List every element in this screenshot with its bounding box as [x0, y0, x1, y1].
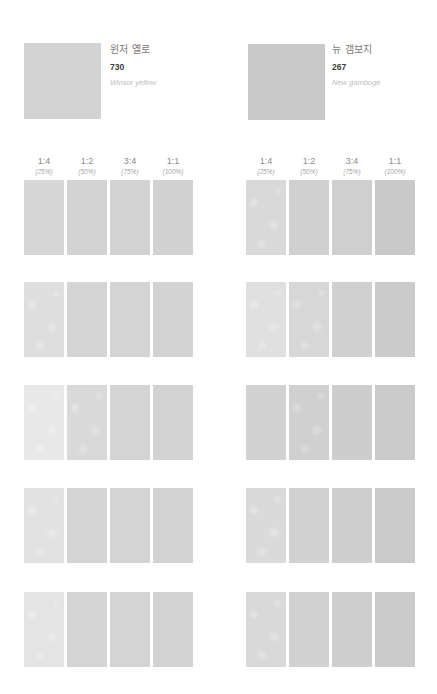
paint-info: 윈저 옐로 730 Winsor yellow — [110, 43, 156, 88]
color-swatch — [375, 488, 415, 563]
paint-korean-name: 윈저 옐로 — [110, 43, 156, 57]
color-swatch — [332, 385, 372, 460]
dilution-percent: (25%) — [24, 167, 64, 176]
color-swatch — [153, 488, 193, 563]
color-swatch — [375, 592, 415, 667]
color-swatch — [289, 180, 329, 255]
dilution-ratio: 3:4 — [332, 156, 372, 167]
color-swatch — [246, 488, 286, 563]
swatch-row — [246, 592, 421, 667]
dilution-percent: (50%) — [289, 167, 329, 176]
color-swatch — [24, 282, 64, 357]
dilution-header: 1:2 (50%) — [67, 156, 107, 176]
dilution-percent: (100%) — [375, 167, 415, 176]
color-swatch — [24, 385, 64, 460]
dilution-header: 3:4 (75%) — [332, 156, 372, 176]
color-swatch — [375, 385, 415, 460]
paint-korean-name: 뉴 갬보지 — [332, 43, 380, 57]
color-swatch — [289, 385, 329, 460]
swatch-row — [246, 385, 421, 460]
dilution-header: 3:4 (75%) — [110, 156, 150, 176]
color-swatch — [246, 282, 286, 357]
paint-number: 267 — [332, 62, 380, 73]
dilution-ratio: 1:2 — [67, 156, 107, 167]
color-swatch — [332, 180, 372, 255]
color-swatch — [246, 180, 286, 255]
swatch-row — [24, 282, 199, 357]
color-swatch — [153, 385, 193, 460]
dilution-percent: (75%) — [110, 167, 150, 176]
dilution-header: 1:4 (25%) — [246, 156, 286, 176]
color-swatch — [289, 592, 329, 667]
dilution-percent: (50%) — [67, 167, 107, 176]
color-swatch — [67, 180, 107, 255]
dilution-ratio: 1:1 — [153, 156, 193, 167]
swatch-row — [246, 488, 421, 563]
color-swatch — [289, 282, 329, 357]
color-swatch — [110, 592, 150, 667]
dilution-ratio: 1:4 — [246, 156, 286, 167]
color-swatch — [110, 180, 150, 255]
swatch-row — [246, 180, 421, 255]
color-swatch — [110, 385, 150, 460]
color-swatch — [332, 282, 372, 357]
paint-swatch-large — [24, 43, 101, 119]
dilution-header: 1:1 (100%) — [375, 156, 415, 176]
dilution-header: 1:2 (50%) — [289, 156, 329, 176]
paint-english-name: New gamboge — [332, 78, 380, 88]
color-swatch — [246, 592, 286, 667]
swatch-row — [24, 180, 199, 255]
color-swatch — [332, 488, 372, 563]
color-swatch — [110, 488, 150, 563]
color-swatch — [153, 592, 193, 667]
dilution-percent: (75%) — [332, 167, 372, 176]
dilution-percent: (25%) — [246, 167, 286, 176]
paint-number: 730 — [110, 62, 156, 73]
color-swatch — [24, 592, 64, 667]
color-swatch — [67, 488, 107, 563]
dilution-ratio: 1:2 — [289, 156, 329, 167]
color-swatch — [67, 592, 107, 667]
color-swatch — [246, 385, 286, 460]
paint-info: 뉴 갬보지 267 New gamboge — [332, 43, 380, 88]
color-swatch — [289, 488, 329, 563]
swatch-row — [24, 592, 199, 667]
dilution-header: 1:1 (100%) — [153, 156, 193, 176]
color-swatch — [332, 592, 372, 667]
color-swatch — [67, 385, 107, 460]
paint-english-name: Winsor yellow — [110, 78, 156, 88]
swatch-row — [246, 282, 421, 357]
dilution-ratio: 1:4 — [24, 156, 64, 167]
color-swatch — [110, 282, 150, 357]
color-swatch — [67, 282, 107, 357]
dilution-ratio: 3:4 — [110, 156, 150, 167]
dilution-percent: (100%) — [153, 167, 193, 176]
color-swatch — [375, 180, 415, 255]
color-swatch — [24, 488, 64, 563]
color-swatch — [153, 180, 193, 255]
paint-swatch-large — [248, 44, 325, 120]
swatch-row — [24, 488, 199, 563]
dilution-ratio: 1:1 — [375, 156, 415, 167]
dilution-header: 1:4 (25%) — [24, 156, 64, 176]
swatch-row — [24, 385, 199, 460]
color-swatch — [375, 282, 415, 357]
color-swatch — [24, 180, 64, 255]
color-swatch — [153, 282, 193, 357]
